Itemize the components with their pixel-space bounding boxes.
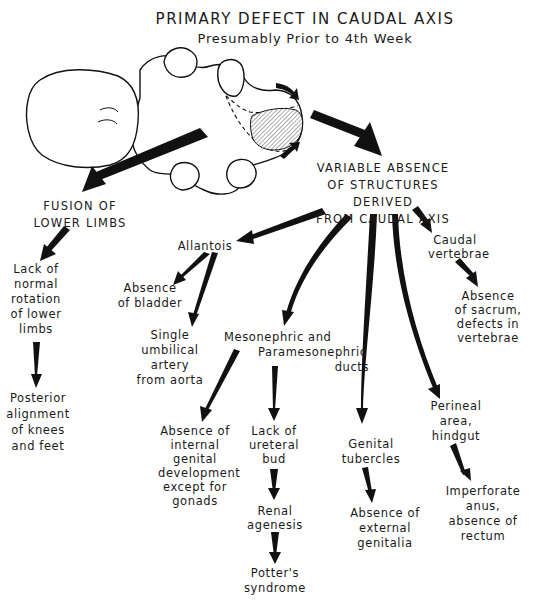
node-genital-tubercles: Genital tubercles [340,437,402,467]
arrow-to-posterior-alignment [31,342,42,388]
node-posterior-alignment: Posterior alignment of knees and feet [5,390,71,454]
embryo-limb-lower-2 [227,159,256,188]
arrow-to-absence-sacrum [455,258,478,287]
arrow-to-variable-absence [310,110,382,156]
node-imperforate-anus: Imperforate anus, absence of rectum [440,484,526,544]
node-caudal-vertebrae: Caudal vertebrae [428,233,482,261]
node-absence-internal-genital: Absence of internal genital development … [158,424,232,508]
arrow-to-imperforate-anus [450,443,471,481]
node-potters-syndrome: Potter's syndrome [240,566,310,596]
node-lack-ureteral-bud: Lack of ureteral bud [248,424,300,466]
node-absence-bladder: Absence of bladder [112,281,188,311]
diagram-canvas: PRIMARY DEFECT IN CAUDAL AXIS Presumably… [0,0,534,611]
arrow-to-potters-syndrome [269,532,281,564]
node-absence-sacrum: Absence of sacrum, defects in vertebrae [452,289,524,345]
node-mesonephric-ducts: Mesonephric and Paramesonephric ducts [224,330,336,375]
node-absence-external-genitalia: Absence of external genitalia [348,506,422,551]
arrow-to-renal-agenesis [268,469,280,500]
arrow-to-single-umbilical-artery [188,252,218,327]
node-single-umbilical-artery: Single umbilical artery from aorta [134,328,206,388]
diagram-title: PRIMARY DEFECT IN CAUDAL AXIS [140,10,470,28]
embryo-limb-lower-1 [170,163,199,191]
diagram-subtitle: Presumably Prior to 4th Week [140,30,470,48]
node-renal-agenesis: Renal agenesis [240,504,310,532]
node-perineal-area: Perineal area, hindgut [430,399,482,444]
embryo-illustration [27,48,303,194]
node-variable-absence: VARIABLE ABSENCE OF STRUCTURES DERIVED F… [302,160,464,228]
embryo-limb-upper-1 [164,48,197,77]
arrow-to-absence-external-genitalia [362,467,376,503]
node-lack-rotation: Lack of normal rotation of lower limbs [5,262,67,337]
arrow-to-mesonephric [282,214,352,326]
node-allantois: Allantois [172,236,238,256]
embryo-head [27,70,139,168]
arrow-to-genital-tubercles [356,214,377,424]
node-fusion-lower-limbs: FUSION OF LOWER LIMBS [30,198,130,232]
